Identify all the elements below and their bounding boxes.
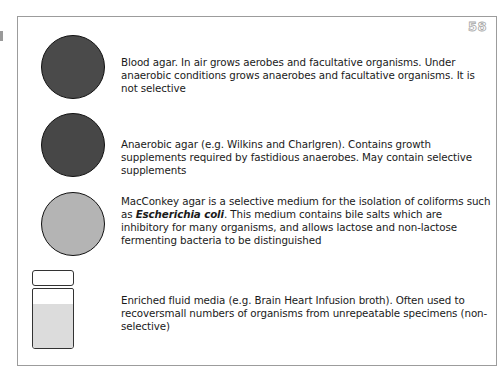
anaerobic-agar-plate-icon	[41, 113, 105, 177]
anaerobic-agar-description: Anaerobic agar (e.g. Wilkins and Charlgr…	[121, 138, 491, 177]
macconkey-agar-description: MacConkey agar is a selective medium for…	[121, 195, 491, 247]
broth-bottle-icon	[32, 288, 74, 349]
page-number: 58	[468, 19, 487, 34]
macconkey-agar-plate-icon	[41, 192, 105, 256]
figure-frame: 58 Blood agar. In air grows aerobes and …	[17, 16, 497, 366]
broth-description: Enriched fluid media (e.g. Brain Heart I…	[121, 294, 491, 333]
bottle-cap-icon	[32, 270, 74, 286]
organism-name: Escherichia coli	[136, 208, 224, 220]
broth-liquid	[33, 304, 73, 348]
blood-agar-description: Blood agar. In air grows aerobes and fac…	[121, 56, 491, 95]
page-edge-mark	[0, 31, 3, 41]
blood-agar-plate-icon	[41, 35, 105, 99]
